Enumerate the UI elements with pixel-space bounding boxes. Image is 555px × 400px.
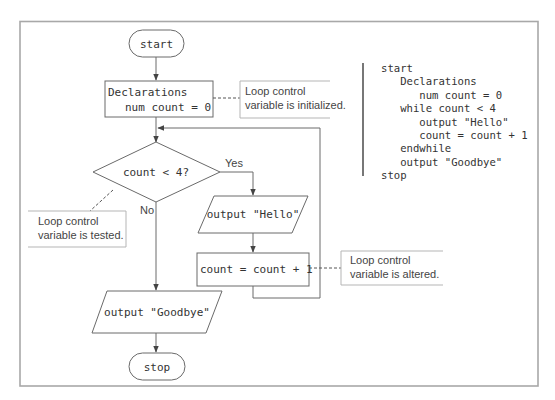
annotation-altered-line1: Loop control (350, 254, 411, 266)
start-terminator: start (129, 30, 184, 57)
annotation-tested-line2: variable is tested. (38, 229, 124, 241)
pseudocode-line: output "Hello" (381, 116, 509, 128)
annotation-initialized-line2: variable is initialized. (245, 99, 346, 111)
pseudocode-line: num count = 0 (381, 89, 502, 101)
pseudocode-line: endwhile (381, 142, 451, 154)
annotation-initialized-line1: Loop control (245, 85, 306, 97)
declarations-box: Declarations num count = 0 (105, 81, 213, 117)
pseudocode-line: stop (381, 169, 407, 181)
output-goodbye-parallelogram: output "Goodbye" (92, 291, 222, 333)
stop-label: stop (144, 361, 171, 374)
flowchart-figure: start Declarations num count = 0 Loop co… (0, 0, 555, 400)
decision-label: count < 4? (123, 166, 189, 179)
annotation-altered-line2: variable is altered. (350, 268, 439, 280)
stop-terminator: stop (129, 353, 185, 380)
output-hello-parallelogram: output "Hello" (198, 196, 308, 233)
declarations-line1: Declarations (108, 86, 187, 99)
output-goodbye-label: output "Goodbye" (104, 306, 210, 319)
increment-label: count = count + 1 (200, 263, 313, 276)
no-label: No (140, 204, 154, 216)
start-label: start (140, 38, 173, 51)
pseudocode-line: count = count + 1 (381, 129, 528, 141)
increment-box: count = count + 1 (197, 253, 313, 286)
pseudocode-line: output "Goodbye" (381, 156, 502, 168)
pseudocode-line: while count < 4 (381, 102, 496, 114)
pseudocode-line: start (381, 62, 413, 74)
output-hello-label: output "Hello" (207, 208, 300, 221)
declarations-line2: num count = 0 (125, 101, 211, 114)
yes-label: Yes (225, 157, 243, 169)
pseudocode-line: Declarations (381, 75, 477, 87)
annotation-tested-line1: Loop control (38, 215, 99, 227)
